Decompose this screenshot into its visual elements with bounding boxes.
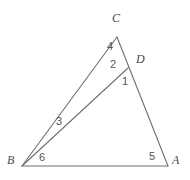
segment-bc	[22, 37, 117, 166]
figure-canvas	[0, 0, 190, 180]
angle-label-4: 4	[107, 41, 113, 52]
geometry-figure: C D A B 1 2 3 4 5 6	[0, 0, 190, 180]
angle-label-6: 6	[39, 152, 45, 163]
angle-label-2: 2	[110, 59, 116, 70]
vertex-label-d: D	[136, 53, 145, 65]
vertex-label-c: C	[112, 12, 120, 24]
vertex-label-b: B	[7, 154, 14, 166]
angle-label-1: 1	[122, 76, 128, 87]
angle-label-3: 3	[56, 116, 62, 127]
vertex-label-a: A	[172, 154, 179, 166]
angle-label-5: 5	[149, 151, 155, 162]
segment-bd	[22, 68, 128, 166]
